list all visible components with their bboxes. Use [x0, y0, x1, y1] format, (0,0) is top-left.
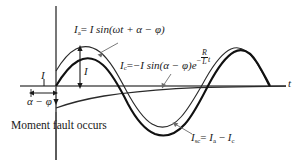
label-angle-alpha-phi: α − φ: [27, 96, 52, 107]
leader-isc-arrowhead: [173, 123, 179, 128]
label-time-axis: t: [288, 78, 291, 89]
label-ia-formula: Ia= I sin(ωt + α − φ): [74, 24, 165, 37]
ic-rhs: −I sin(α − φ)e: [133, 59, 197, 71]
leader-ia-arrowhead: [98, 53, 104, 57]
label-isc-formula: Isc= Ia − Ic: [191, 132, 234, 145]
ic-exponent-denominator: L: [201, 58, 208, 66]
label-amplitude-i: I: [84, 66, 88, 77]
isc-equals: =: [200, 131, 206, 143]
ia-equals: =: [81, 23, 87, 35]
isc-operator: −: [219, 131, 225, 143]
ic-start-marker: [53, 99, 58, 105]
ic-exponent-tail: t: [208, 56, 210, 64]
ic-exponent-fraction: RL: [201, 49, 208, 67]
caption-moment-fault-occurs: Moment fault occurs: [11, 120, 107, 132]
isc-rhs-ia-sub: a: [213, 137, 216, 144]
isc-rhs-ic-sub: c: [231, 137, 234, 144]
ia-rhs: I sin(ωt + α − φ): [90, 23, 165, 35]
label-ic-formula: Ic=−I sin(α − φ)e−RLt: [120, 49, 210, 72]
curve-ic: [56, 86, 286, 108]
label-offset-i: I: [41, 70, 45, 81]
leader-ia: [100, 43, 118, 53]
